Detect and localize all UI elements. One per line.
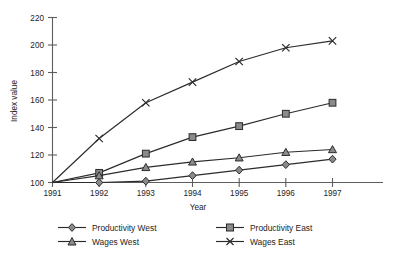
- diamond-marker-icon: [189, 172, 196, 180]
- square-marker-icon: [142, 150, 149, 157]
- legend-label: Wages East: [250, 237, 296, 247]
- diamond-marker-icon: [329, 155, 336, 163]
- x-tick-label: 1993: [137, 189, 156, 198]
- legend-label: Productivity East: [250, 223, 313, 233]
- square-marker-icon: [189, 134, 196, 141]
- legend-item-productivity-east[interactable]: Productivity East: [216, 223, 313, 233]
- square-marker-icon: [329, 99, 336, 106]
- diamond-marker-icon: [282, 161, 289, 169]
- legend-label: Productivity West: [92, 223, 157, 233]
- y-tick-label: 200: [30, 41, 44, 50]
- diamond-marker-icon: [68, 224, 75, 232]
- square-marker-icon: [227, 224, 234, 231]
- x-axis-title: Year: [190, 203, 207, 212]
- line-chart-figure: Index value 220 200 180 160 140 120 100 …: [0, 0, 396, 256]
- cross-x-marker-icon: [189, 78, 196, 85]
- series-productivity-east: [53, 99, 336, 182]
- legend-label: Wages West: [92, 237, 140, 247]
- y-tick-label: 160: [30, 96, 44, 105]
- x-tick-label: 1997: [323, 189, 342, 198]
- x-tick-label: 1995: [230, 189, 249, 198]
- y-tick-label: 220: [30, 14, 44, 23]
- series-productivity-west: [53, 155, 337, 186]
- legend-item-wages-east[interactable]: Wages East: [216, 237, 296, 247]
- legend-item-wages-west[interactable]: Wages West: [58, 237, 140, 247]
- y-axis-title: Index value: [10, 80, 19, 122]
- chart-svg: Index value 220 200 180 160 140 120 100 …: [0, 0, 396, 256]
- x-tick-label: 1991: [43, 189, 62, 198]
- cross-x-marker-icon: [235, 58, 242, 65]
- x-tick-label: 1996: [277, 189, 296, 198]
- diamond-marker-icon: [142, 177, 149, 185]
- chart-legend: Productivity West Wages West Productivit…: [58, 223, 313, 247]
- cross-x-marker-icon: [142, 99, 149, 106]
- diamond-marker-icon: [96, 179, 103, 187]
- diamond-marker-icon: [236, 166, 243, 174]
- y-tick-label: 180: [30, 69, 44, 78]
- y-tick-label: 100: [30, 179, 44, 188]
- y-tick-label: 120: [30, 151, 44, 160]
- cross-x-marker-icon: [95, 135, 102, 142]
- x-tick-label: 1994: [183, 189, 202, 198]
- square-marker-icon: [236, 123, 243, 130]
- square-marker-icon: [282, 110, 289, 117]
- plot-series-layer: [53, 37, 337, 186]
- x-tick-label: 1992: [90, 189, 109, 198]
- y-tick-label: 140: [30, 124, 44, 133]
- legend-item-productivity-west[interactable]: Productivity West: [58, 223, 157, 233]
